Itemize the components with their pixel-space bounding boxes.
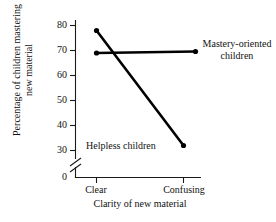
y-axis-title-line1: Percentage of children mastering: [11, 0, 23, 145]
series-point-mastery-confusing: [193, 49, 198, 54]
series-label-mastery-line1: Mastery-oriented: [199, 38, 275, 50]
y-tick-label-40: 40: [45, 120, 67, 130]
series-label-mastery: Mastery-oriented children: [199, 38, 275, 61]
x-axis-title: Clarity of new material: [55, 198, 225, 210]
y-tick-label-80: 80: [45, 20, 67, 30]
series-point-helpless-clear: [94, 28, 99, 33]
x-tick-label-clear: Clear: [61, 185, 131, 195]
y-tick-label-30: 30: [45, 145, 67, 155]
y-axis-title-line2: new material: [23, 0, 35, 145]
series-point-mastery-clear: [94, 50, 99, 55]
y-axis-title: Percentage of children mastering new mat…: [11, 0, 35, 145]
chart-plot-area: [0, 0, 276, 222]
chart-figure: 80 70 60 50 40 30 0 Clear Confusing Perc…: [0, 0, 276, 222]
y-tick-label-50: 50: [45, 95, 67, 105]
y-tick-label-70: 70: [45, 45, 67, 55]
series-line-mastery: [97, 52, 196, 54]
y-tick-label-0: 0: [45, 172, 67, 182]
series-label-mastery-line2: children: [199, 50, 275, 62]
series-label-helpless: Helpless children: [86, 140, 156, 152]
series-line-helpless: [97, 31, 184, 146]
series-point-helpless-confusing: [181, 143, 186, 148]
x-tick-label-confusing: Confusing: [149, 185, 219, 195]
y-tick-label-60: 60: [45, 70, 67, 80]
